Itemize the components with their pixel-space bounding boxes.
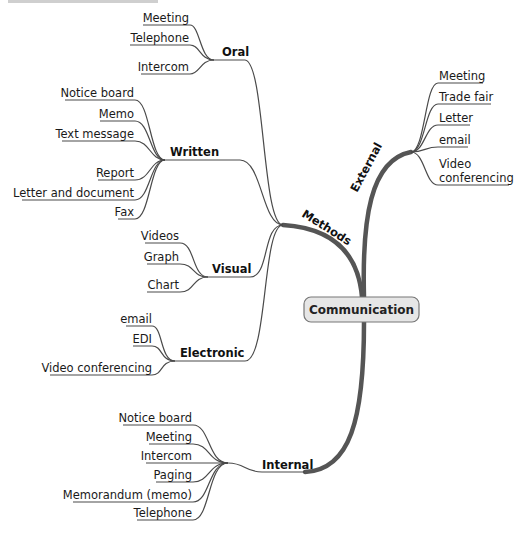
written-item-text-message: Text message — [54, 127, 134, 141]
external-item-email: email — [439, 133, 471, 147]
external-item-meeting: Meeting — [439, 69, 485, 83]
oral-item-intercom: Intercom — [138, 60, 189, 74]
written-item-fax: Fax — [115, 205, 135, 219]
written-item-letter-document: Letter and document — [13, 186, 135, 200]
internal-item-intercom: Intercom — [141, 449, 192, 463]
cut-off-title — [8, 0, 158, 3]
electronic-label: Electronic — [180, 346, 245, 360]
oral-item-telephone: Telephone — [130, 31, 189, 45]
internal-label: Internal — [262, 458, 313, 472]
internal-item-notice-board: Notice board — [118, 411, 192, 425]
written-connector — [165, 160, 283, 225]
internal-item-memorandum: Memorandum (memo) — [63, 488, 192, 502]
visual-label: Visual — [212, 262, 251, 276]
external-branch-line — [364, 152, 411, 297]
written-item-report: Report — [96, 166, 135, 180]
oral-item-meeting: Meeting — [143, 11, 189, 25]
internal-item-paging: Paging — [153, 468, 192, 482]
oral-connector — [214, 60, 283, 225]
central-node-label: Communication — [309, 303, 414, 317]
central-node: Communication — [304, 297, 419, 322]
oral-label: Oral — [222, 45, 249, 59]
written-item-notice-board: Notice board — [60, 86, 134, 100]
visual-item-chart: Chart — [147, 278, 179, 292]
internal-branch-line — [305, 322, 364, 472]
external-item-trade-fair: Trade fair — [438, 90, 493, 104]
written-leaves — [22, 100, 165, 219]
electronic-connector — [175, 225, 283, 361]
internal-item-telephone: Telephone — [133, 506, 192, 520]
written-label: Written — [170, 145, 219, 159]
mind-map: Oral Meeting Telephone Intercom Written … — [0, 0, 524, 535]
external-item-letter: Letter — [439, 111, 473, 125]
external-item-video: Video — [439, 157, 471, 171]
electronic-item-video-conferencing: Video conferencing — [41, 361, 152, 375]
electronic-item-edi: EDI — [132, 332, 152, 346]
electronic-item-email: email — [120, 312, 152, 326]
visual-item-videos: Videos — [141, 229, 179, 243]
written-item-memo: Memo — [99, 107, 134, 121]
visual-item-graph: Graph — [144, 250, 179, 264]
external-item-conferencing: conferencing — [439, 171, 514, 185]
external-label: External — [347, 140, 385, 194]
internal-item-meeting: Meeting — [146, 430, 192, 444]
